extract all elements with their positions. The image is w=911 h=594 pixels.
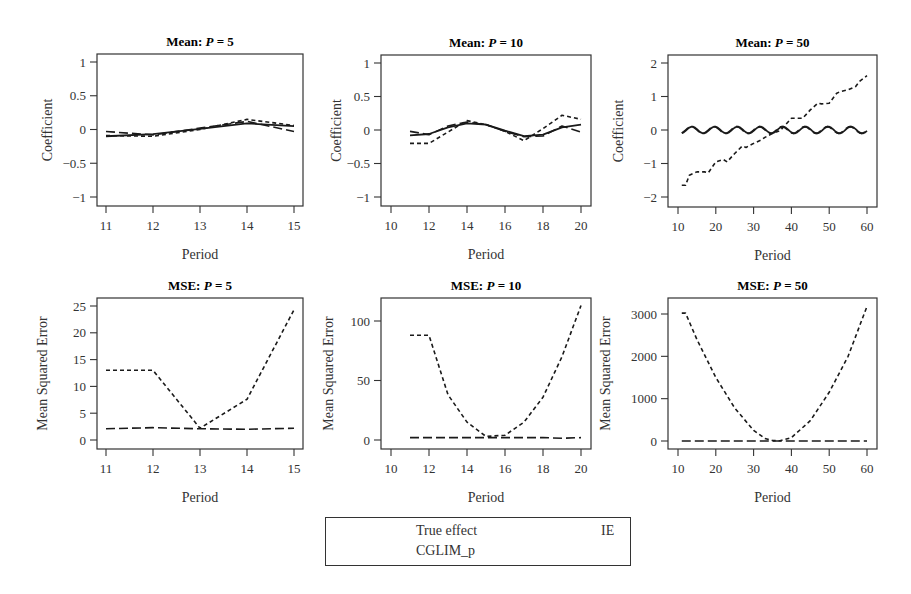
- x-tick-label: 16: [499, 218, 513, 233]
- x-tick-label: 10: [385, 218, 398, 233]
- y-tick-label: −1: [356, 190, 370, 205]
- x-tick-label: 12: [147, 218, 160, 233]
- x-tick-label: 14: [241, 461, 255, 476]
- y-axis-label: Mean Squared Error: [321, 316, 336, 431]
- y-tick-label: −0.5: [346, 156, 370, 171]
- x-tick-label: 13: [194, 218, 207, 233]
- x-tick-label: 11: [100, 461, 113, 476]
- x-axis-label: Period: [468, 247, 505, 262]
- x-tick-label: 60: [861, 461, 874, 476]
- y-tick-label: 0: [364, 433, 371, 448]
- y-tick-label: 1: [80, 55, 87, 70]
- x-tick-label: 40: [785, 219, 798, 234]
- y-tick-label: 5: [80, 406, 87, 421]
- y-tick-label: −2: [643, 190, 657, 205]
- legend-label: True effect: [416, 523, 477, 539]
- chart-title: Mean: P = 5: [166, 34, 234, 49]
- x-tick-label: 20: [575, 461, 588, 476]
- y-tick-label: 0.5: [354, 89, 370, 104]
- chart-title: Mean: P = 50: [735, 35, 809, 50]
- chart-panel-2: Mean: P = 10101214161820−1−0.500.51Perio…: [329, 35, 591, 262]
- x-tick-label: 60: [861, 219, 874, 234]
- x-tick-label: 14: [241, 218, 255, 233]
- y-tick-label: 2: [651, 56, 658, 71]
- x-tick-label: 14: [461, 218, 475, 233]
- x-tick-label: 15: [288, 461, 301, 476]
- x-tick-label: 20: [575, 218, 588, 233]
- y-tick-label: 3000: [631, 307, 657, 322]
- y-tick-label: 0: [80, 122, 87, 137]
- series-line-cglim-p: [106, 310, 294, 428]
- chart-panel-6: MSE: P = 501020304050600100020003000Peri…: [598, 278, 877, 505]
- figure: Mean: P = 51112131415−1−0.500.51PeriodCo…: [0, 0, 911, 594]
- legend-item-ie: IE: [521, 523, 614, 539]
- y-tick-label: 50: [357, 373, 370, 388]
- x-tick-label: 10: [672, 461, 685, 476]
- x-tick-label: 50: [823, 461, 836, 476]
- x-tick-label: 30: [747, 219, 760, 234]
- x-axis-label: Period: [468, 490, 505, 505]
- legend-item-true-effect: True effect: [336, 523, 477, 539]
- x-tick-label: 12: [423, 461, 436, 476]
- y-tick-label: −0.5: [62, 156, 86, 171]
- plot-frame: [381, 55, 591, 206]
- series-line-ie: [410, 438, 581, 439]
- x-tick-label: 10: [672, 219, 685, 234]
- x-tick-label: 14: [461, 461, 475, 476]
- chart-panel-4: MSE: P = 511121314150510152025PeriodMean…: [35, 278, 303, 505]
- x-tick-label: 11: [100, 218, 113, 233]
- series-line-ie: [106, 121, 294, 134]
- x-tick-label: 30: [747, 461, 760, 476]
- chart-title: MSE: P = 50: [737, 278, 808, 293]
- y-tick-label: 10: [73, 379, 86, 394]
- legend: True effect IE CGLIM_p: [325, 517, 631, 566]
- y-tick-label: 0: [364, 123, 371, 138]
- y-axis-label: Coefficient: [329, 99, 344, 162]
- x-tick-label: 50: [823, 219, 836, 234]
- y-tick-label: −1: [72, 190, 86, 205]
- y-tick-label: 1: [651, 89, 658, 104]
- y-tick-label: 20: [73, 325, 86, 340]
- y-tick-label: 0: [651, 123, 658, 138]
- plot-frame: [381, 298, 591, 449]
- chart-title: Mean: P = 10: [449, 35, 523, 50]
- x-tick-label: 40: [785, 461, 798, 476]
- legend-item-cglim: CGLIM_p: [336, 543, 475, 559]
- x-axis-label: Period: [182, 247, 219, 262]
- x-tick-label: 16: [499, 461, 513, 476]
- x-tick-label: 10: [385, 461, 398, 476]
- y-axis-label: Mean Squared Error: [598, 316, 613, 431]
- y-tick-label: 15: [73, 352, 86, 367]
- y-axis-label: Coefficient: [40, 99, 55, 162]
- x-tick-label: 12: [423, 218, 436, 233]
- y-tick-label: 0.5: [70, 88, 86, 103]
- series-line-ie: [410, 122, 581, 137]
- x-tick-label: 18: [537, 461, 550, 476]
- x-axis-label: Period: [182, 490, 219, 505]
- series-line-cglim-p: [682, 306, 867, 440]
- y-axis-label: Mean Squared Error: [35, 316, 50, 431]
- x-tick-label: 15: [288, 218, 301, 233]
- x-tick-label: 20: [709, 461, 722, 476]
- x-axis-label: Period: [754, 490, 791, 505]
- x-tick-label: 18: [537, 218, 550, 233]
- legend-label: IE: [601, 523, 614, 539]
- chart-title: MSE: P = 10: [451, 278, 522, 293]
- chart-panel-5: MSE: P = 10101214161820050100PeriodMean …: [321, 278, 591, 505]
- chart-panel-3: Mean: P = 50102030405060−2−1012PeriodCoe…: [611, 35, 877, 263]
- x-tick-label: 13: [194, 461, 207, 476]
- y-tick-label: 0: [80, 433, 87, 448]
- y-tick-label: 100: [351, 314, 371, 329]
- x-axis-label: Period: [754, 248, 791, 263]
- y-tick-label: 2000: [631, 349, 657, 364]
- x-tick-label: 12: [147, 461, 160, 476]
- y-tick-label: 1: [364, 56, 371, 71]
- y-axis-label: Coefficient: [611, 100, 626, 163]
- plot-frame: [97, 298, 303, 449]
- plot-frame: [668, 298, 877, 449]
- chart-panel-1: Mean: P = 51112131415−1−0.500.51PeriodCo…: [40, 34, 303, 262]
- y-tick-label: −1: [643, 156, 657, 171]
- series-line-cglim-p: [410, 306, 581, 437]
- legend-label: CGLIM_p: [416, 543, 475, 559]
- x-tick-label: 20: [709, 219, 722, 234]
